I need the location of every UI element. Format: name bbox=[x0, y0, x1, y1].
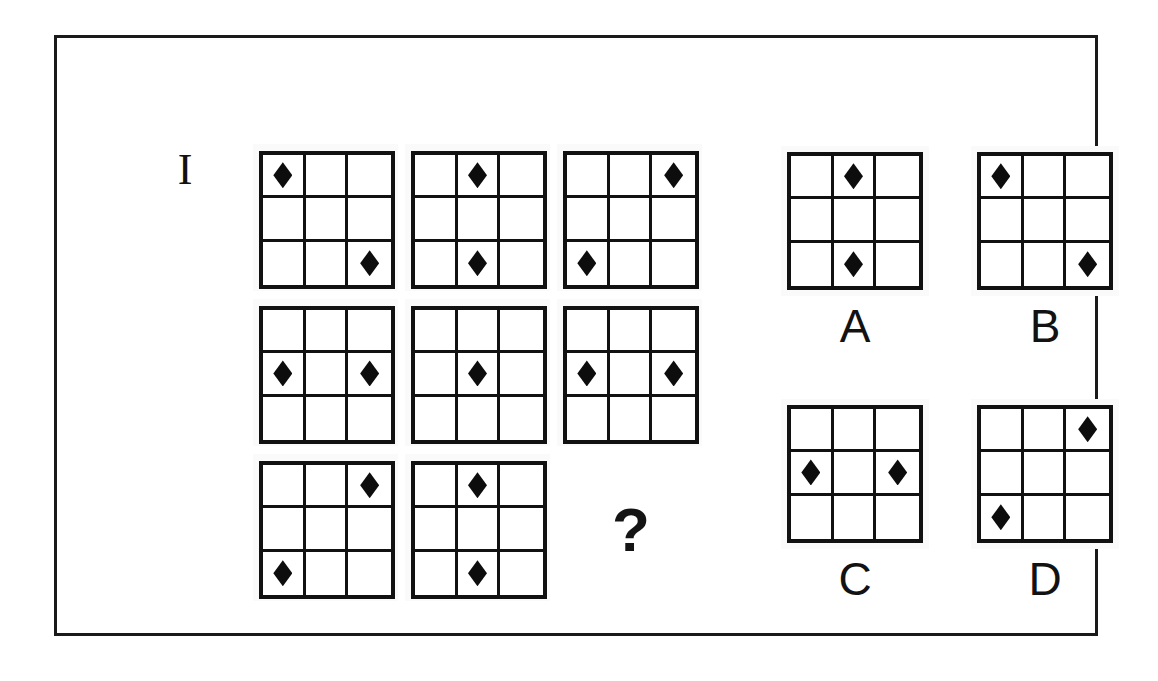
diamond-icon bbox=[468, 162, 487, 188]
grid-cell-r2c2 bbox=[1024, 452, 1067, 495]
grid-cell-r3c1 bbox=[415, 397, 458, 440]
three-by-three-grid bbox=[411, 151, 547, 289]
diamond-icon bbox=[844, 163, 863, 189]
grid-cell-r2c1 bbox=[263, 198, 306, 241]
grid-cell-r1c3 bbox=[876, 409, 919, 452]
grid-cell-r1c3 bbox=[1066, 409, 1109, 452]
item-number-label: I bbox=[165, 146, 205, 194]
grid-cell-r1c2 bbox=[1024, 409, 1067, 452]
option-d[interactable]: D bbox=[963, 395, 1153, 648]
grid-cell-r2c3 bbox=[348, 198, 391, 241]
grid-cell-r3c3 bbox=[500, 397, 543, 440]
grid-cell-r3c2 bbox=[306, 242, 349, 285]
three-by-three-grid bbox=[787, 405, 923, 543]
grid-cell-r3c3 bbox=[1066, 243, 1109, 286]
grid-cell-r3c3 bbox=[652, 397, 695, 440]
grid-cell-r1c1 bbox=[567, 155, 610, 198]
grid-cell-r3c1 bbox=[263, 552, 306, 595]
diamond-icon bbox=[991, 163, 1010, 189]
diamond-icon bbox=[888, 459, 907, 485]
diamond-icon bbox=[577, 250, 596, 276]
grid-cell-r2c2 bbox=[834, 452, 877, 495]
grid-cell-r1c1 bbox=[567, 310, 610, 353]
option-c-label: C bbox=[787, 553, 923, 605]
grid-cell-r1c2 bbox=[458, 465, 501, 508]
diamond-icon bbox=[468, 360, 487, 386]
matrix-cell-3 bbox=[555, 142, 707, 297]
three-by-three-grid bbox=[977, 152, 1113, 290]
grid-cell-r3c2 bbox=[458, 397, 501, 440]
grid-cell-r2c1 bbox=[981, 452, 1024, 495]
grid-cell-r1c1 bbox=[415, 465, 458, 508]
grid-cell-r3c2 bbox=[610, 397, 653, 440]
grid-cell-r1c2 bbox=[834, 409, 877, 452]
grid-cell-r1c1 bbox=[791, 156, 834, 199]
grid-cell-r1c1 bbox=[263, 155, 306, 198]
three-by-three-grid bbox=[977, 405, 1113, 543]
matrix-cell-7 bbox=[251, 452, 403, 607]
answer-options-panel: ABCD bbox=[773, 142, 1153, 648]
grid-cell-r1c1 bbox=[415, 155, 458, 198]
grid-cell-r1c2 bbox=[306, 465, 349, 508]
diamond-icon bbox=[577, 360, 596, 386]
grid-cell-r2c1 bbox=[567, 198, 610, 241]
diamond-icon bbox=[273, 360, 292, 386]
diamond-icon bbox=[1078, 251, 1097, 277]
matrix-cell-8 bbox=[403, 452, 555, 607]
puzzle-frame: I ? ABCD bbox=[54, 35, 1098, 636]
grid-cell-r3c1 bbox=[415, 552, 458, 595]
diamond-icon bbox=[273, 162, 292, 188]
grid-cell-r2c1 bbox=[263, 353, 306, 396]
grid-cell-r1c2 bbox=[610, 310, 653, 353]
matrix-cell-5 bbox=[403, 297, 555, 452]
grid-cell-r3c3 bbox=[348, 242, 391, 285]
grid-cell-r1c1 bbox=[791, 409, 834, 452]
grid-cell-r2c3 bbox=[652, 353, 695, 396]
grid-cell-r2c3 bbox=[1066, 452, 1109, 495]
grid-cell-r2c1 bbox=[415, 353, 458, 396]
matrix-cell-2 bbox=[403, 142, 555, 297]
grid-cell-r1c2 bbox=[306, 310, 349, 353]
diamond-icon bbox=[273, 560, 292, 586]
grid-cell-r1c1 bbox=[415, 310, 458, 353]
grid-cell-r1c1 bbox=[981, 409, 1024, 452]
grid-cell-r3c1 bbox=[263, 397, 306, 440]
grid-cell-r3c1 bbox=[263, 242, 306, 285]
grid-cell-r1c2 bbox=[458, 310, 501, 353]
three-by-three-grid bbox=[259, 151, 395, 289]
grid-cell-r2c3 bbox=[1066, 199, 1109, 242]
grid-cell-r2c1 bbox=[263, 508, 306, 551]
grid-cell-r1c3 bbox=[348, 465, 391, 508]
grid-cell-r3c2 bbox=[834, 496, 877, 539]
grid-cell-r2c3 bbox=[876, 199, 919, 242]
diamond-icon bbox=[360, 250, 379, 276]
grid-cell-r1c3 bbox=[500, 155, 543, 198]
grid-cell-r3c3 bbox=[876, 496, 919, 539]
grid-cell-r3c2 bbox=[306, 397, 349, 440]
grid-cell-r3c1 bbox=[791, 496, 834, 539]
three-by-three-grid bbox=[259, 306, 395, 444]
diamond-icon bbox=[664, 162, 683, 188]
diamond-icon bbox=[1078, 416, 1097, 442]
grid-cell-r2c1 bbox=[415, 198, 458, 241]
grid-cell-r1c1 bbox=[263, 310, 306, 353]
option-b-label: B bbox=[977, 300, 1113, 352]
grid-cell-r3c2 bbox=[610, 242, 653, 285]
three-by-three-grid bbox=[411, 306, 547, 444]
grid-cell-r2c2 bbox=[1024, 199, 1067, 242]
grid-cell-r2c2 bbox=[306, 198, 349, 241]
grid-cell-r3c2 bbox=[458, 242, 501, 285]
grid-cell-r2c2 bbox=[458, 198, 501, 241]
diamond-icon bbox=[664, 360, 683, 386]
grid-cell-r2c2 bbox=[458, 353, 501, 396]
option-c[interactable]: C bbox=[773, 395, 963, 648]
grid-cell-r3c3 bbox=[876, 243, 919, 286]
diamond-icon bbox=[468, 250, 487, 276]
grid-cell-r1c3 bbox=[1066, 156, 1109, 199]
three-by-three-grid bbox=[259, 461, 395, 599]
option-b[interactable]: B bbox=[963, 142, 1153, 395]
grid-cell-r3c2 bbox=[458, 552, 501, 595]
grid-cell-r3c2 bbox=[306, 552, 349, 595]
grid-cell-r3c2 bbox=[834, 243, 877, 286]
option-a[interactable]: A bbox=[773, 142, 963, 395]
